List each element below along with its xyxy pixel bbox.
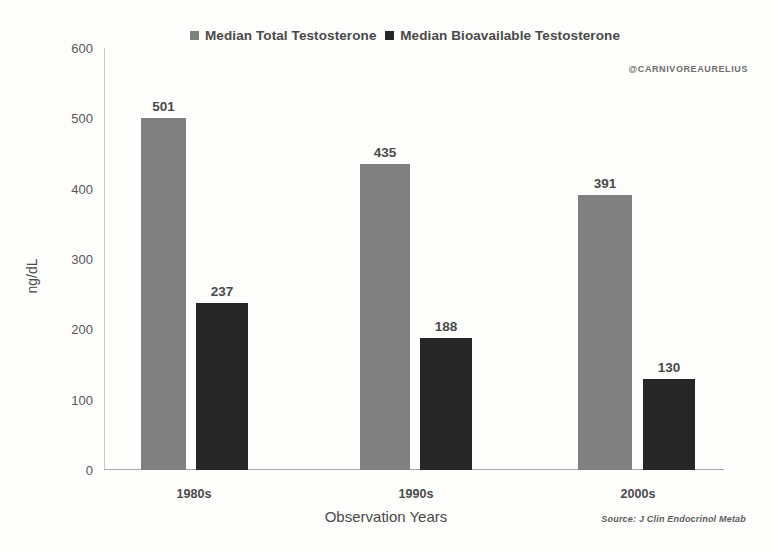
legend-item-total-testosterone[interactable]: Median Total Testosterone — [190, 28, 377, 43]
bar-1990s-total[interactable]: 435 — [360, 164, 410, 470]
chart-screenshot: Median Total Testosterone Median Bioavai… — [0, 0, 772, 552]
y-axis-tick-0: 0 — [86, 463, 93, 478]
y-axis-tick-500: 500 — [71, 111, 93, 126]
x-axis-tick-1980s: 1980s — [177, 487, 212, 501]
y-axis-tick-600: 600 — [71, 41, 93, 56]
x-axis-tick-2000s: 2000s — [621, 487, 656, 501]
bar-value-1980s-bioavailable: 237 — [211, 284, 234, 299]
bar-value-1990s-total: 435 — [374, 145, 397, 160]
legend-swatch-bioavailable-testosterone — [385, 31, 394, 40]
x-axis-tick-1990s: 1990s — [399, 487, 434, 501]
legend-label-bioavailable-testosterone: Median Bioavailable Testosterone — [400, 28, 620, 43]
bar-2000s-total[interactable]: 391 — [578, 195, 632, 470]
bar-value-1980s-total: 501 — [152, 99, 175, 114]
bar-value-2000s-total: 391 — [594, 176, 617, 191]
bar-2000s-bioavailable[interactable]: 130 — [643, 379, 695, 470]
legend-item-bioavailable-testosterone[interactable]: Median Bioavailable Testosterone — [385, 28, 620, 43]
bar-1990s-bioavailable[interactable]: 188 — [420, 338, 472, 470]
bar-1980s-bioavailable[interactable]: 237 — [196, 303, 248, 470]
legend-label-total-testosterone: Median Total Testosterone — [205, 28, 377, 43]
y-axis-tick-200: 200 — [71, 322, 93, 337]
bar-value-2000s-bioavailable: 130 — [658, 360, 681, 375]
y-axis-tick-100: 100 — [71, 392, 93, 407]
y-axis-title: ng/dL — [24, 258, 40, 293]
plot-area: 600 500 400 300 200 100 0 501 237 1980s … — [104, 48, 724, 470]
y-axis-tick-400: 400 — [71, 181, 93, 196]
chart-legend: Median Total Testosterone Median Bioavai… — [190, 24, 620, 46]
source-note: Source: J Clin Endocrinol Metab — [601, 514, 746, 524]
bar-value-1990s-bioavailable: 188 — [435, 319, 458, 334]
bar-1980s-total[interactable]: 501 — [141, 118, 186, 470]
y-axis-line — [104, 48, 105, 470]
legend-swatch-total-testosterone — [190, 31, 199, 40]
y-axis-tick-300: 300 — [71, 252, 93, 267]
